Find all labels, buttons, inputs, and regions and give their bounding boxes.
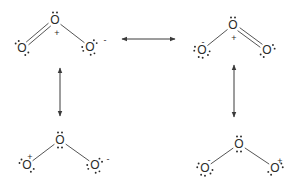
resonance-structure-top-left: O+OO- [15, 12, 107, 56]
single-bond [66, 144, 90, 161]
lone-pair-dots [193, 46, 196, 52]
atom-symbol: O [90, 158, 99, 172]
atom-symbol: O [228, 18, 237, 32]
positive-charge-label: + [27, 152, 32, 162]
atom-symbol: O [17, 41, 26, 55]
structures-layer: O+OO-O+O-OOO+O-OO-O+ [15, 12, 284, 177]
lone-pair-dots [207, 50, 211, 56]
resonance-structure-top-right: O+O-O [193, 17, 275, 59]
resonance-structure-bottom-right: OO-O+ [196, 136, 283, 177]
oxygen-atom: O- [196, 155, 213, 177]
double-bond [238, 28, 263, 48]
double-bond [26, 23, 51, 45]
oxygen-atom: O+ [19, 152, 35, 173]
negative-charge-label: - [104, 35, 107, 45]
oxygen-atom: O+ [267, 156, 283, 176]
single-bond [245, 148, 269, 164]
oxygen-atom: O [234, 136, 243, 153]
lone-pair-dots [210, 169, 214, 174]
positive-charge-label: + [277, 156, 282, 166]
lone-pair-dots [196, 163, 199, 169]
single-bond [61, 24, 85, 42]
oxygen-atom: O- [81, 35, 106, 56]
positive-charge-label: + [231, 33, 236, 43]
lone-pair-dots [86, 164, 89, 170]
lone-pair-dots [272, 44, 276, 50]
oxygen-atom: O [260, 43, 276, 58]
lone-pair-dots [81, 46, 84, 52]
single-bond [33, 144, 55, 161]
atom-symbol: O [55, 133, 64, 147]
negative-charge-label: - [107, 154, 110, 164]
single-bond [211, 148, 234, 164]
oxygen-atom: O+ [50, 12, 59, 38]
atom-symbol: O [262, 43, 271, 57]
ozone-resonance-diagram: O+OO-O+O-OOO+O-OO-O+ [0, 0, 298, 189]
resonance-structure-bottom-left: OO+O- [19, 132, 110, 174]
oxygen-atom: O- [193, 37, 210, 59]
oxygen-atom: O+ [228, 17, 237, 43]
oxygen-atom: O [15, 40, 30, 56]
atom-symbol: O [234, 137, 243, 151]
negative-charge-label: - [202, 37, 205, 47]
single-bond [207, 29, 227, 45]
negative-charge-label: - [208, 155, 211, 165]
positive-charge-label: + [54, 28, 59, 38]
oxygen-atom: O- [86, 154, 109, 174]
atom-symbol: O [85, 40, 94, 54]
oxygen-atom: O [55, 132, 64, 149]
atom-symbol: O [50, 13, 59, 27]
